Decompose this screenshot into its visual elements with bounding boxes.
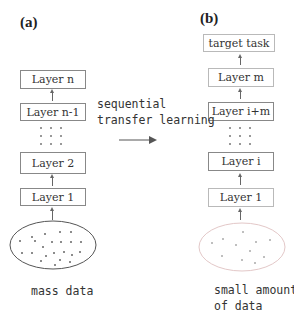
mass-data-ellipse — [10, 221, 96, 269]
small-data-ellipse — [199, 223, 285, 271]
diagram-graphics — [0, 0, 294, 317]
right-arrow-icon — [119, 136, 157, 144]
small-data-caption-line-2: of data — [214, 298, 262, 314]
small-data-caption-line-1: small amount — [214, 282, 294, 298]
mass-data-caption: mass data — [31, 283, 93, 299]
